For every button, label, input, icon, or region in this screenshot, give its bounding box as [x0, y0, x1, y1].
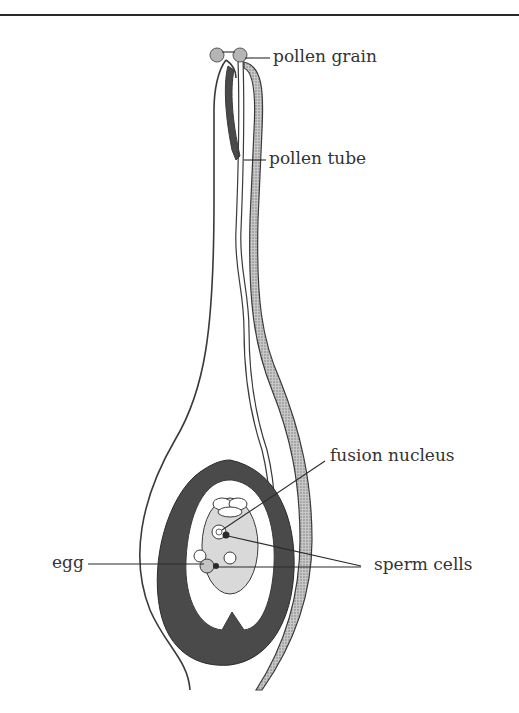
pistil-diagram	[0, 0, 519, 713]
stigma-dark-stripe	[225, 66, 240, 160]
pollen-grain-right	[233, 48, 247, 62]
label-egg: egg	[52, 554, 84, 571]
label-fusion-nucleus: fusion nucleus	[330, 447, 455, 464]
label-pollen-grain: pollen grain	[273, 48, 377, 65]
label-sperm-cells: sperm cells	[374, 556, 473, 573]
pollen-grains	[210, 48, 247, 62]
egg-cell	[200, 559, 214, 573]
sperm-cell-upper	[223, 532, 230, 539]
synergid-right	[224, 552, 236, 564]
label-pollen-tube: pollen tube	[269, 150, 366, 167]
pollen-grain-left	[210, 48, 224, 62]
sperm-cell-lower	[213, 563, 219, 569]
